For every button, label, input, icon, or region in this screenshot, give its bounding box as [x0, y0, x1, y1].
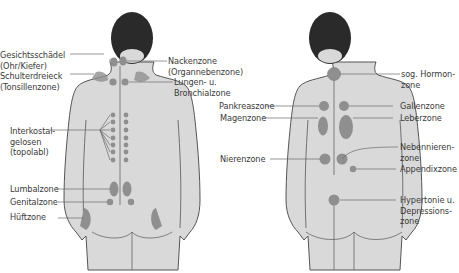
label-pankreaszone: Pankreaszone [219, 101, 274, 112]
label-gesichtsschaedel: Gesichtsschädel (Ohr/Kiefer) [0, 50, 65, 71]
label-hypertonie-depressionszone: Hypertonie u. Depressions- zone [400, 195, 454, 227]
label-interkostal: Interkostal- gelosen (topolabl) [10, 126, 55, 158]
label-schulterdreieck: Schulterdreieck (Tonsillenzone) [0, 71, 62, 92]
label-appendixzone: Appendixzone [400, 164, 457, 175]
left-body-figure [50, 12, 200, 270]
label-genitalzone: Genitalzone [10, 197, 58, 208]
label-magenzone: Magenzone [220, 113, 266, 124]
reflex-zone-diagram [0, 0, 459, 273]
label-hueftzone: Hüftzone [10, 212, 46, 223]
label-nebennierenzone: Nebennieren- zone [400, 142, 454, 163]
label-gallenzone: Gallenzone [400, 101, 445, 112]
label-nierenzone: Nierenzone [220, 154, 265, 165]
right-body-figure [263, 12, 422, 270]
label-lumbalzone: Lumbalzone [10, 184, 59, 195]
label-nackenzone: Nackenzone (Organnebenzone) [168, 56, 243, 77]
label-hormonzone: sog. Hormon- zone [401, 69, 455, 90]
label-leberzone: Leberzone [400, 113, 442, 124]
label-lungen-bronchialzone: Lungen- u. Bronchialzone [174, 77, 231, 98]
